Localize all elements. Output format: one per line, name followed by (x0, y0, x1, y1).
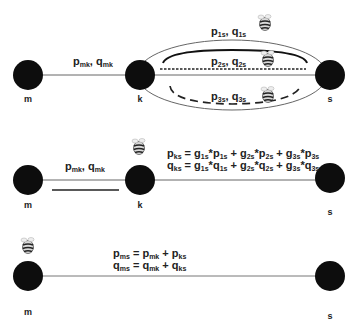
node-m (13, 60, 43, 90)
node-label-s: s (327, 207, 332, 217)
panel-1 (13, 15, 345, 111)
path-2-label: p2s, q2s (211, 55, 246, 67)
node-k (125, 165, 155, 195)
node-label-m: m (24, 200, 32, 210)
bee-icon (258, 15, 271, 31)
node-s (315, 261, 345, 291)
node-label-m: m (24, 307, 32, 317)
node-label-k: k (137, 94, 142, 104)
equation-pms: pms = pmk + pks (113, 247, 186, 259)
node-k (125, 60, 155, 90)
equation-pks: pks = g1s*p1s + g2s*p2s + g3s*p3s (167, 147, 319, 159)
node-label-s: s (327, 94, 332, 104)
node-m (13, 261, 43, 291)
edge-mk-label: pmk, qmk (65, 160, 105, 172)
node-label-m: m (24, 94, 32, 104)
bee-icon (21, 238, 34, 254)
node-s (315, 60, 345, 90)
edge-mk-label: pmk, qmk (73, 55, 113, 67)
bee-icon (261, 87, 274, 103)
bee-icon (261, 51, 274, 67)
path-1-label: p1s, q1s (211, 25, 246, 37)
node-label-s: s (327, 311, 332, 321)
equation-qks: qks = g1s*q1s + g2s*q2s + g3s*q3s (167, 159, 319, 171)
equation-qms: qms = qmk + qks (113, 259, 186, 271)
node-label-k: k (137, 200, 142, 210)
bee-icon (132, 139, 145, 155)
path-3-label: p3s, q3s (211, 90, 246, 102)
node-s (315, 163, 345, 193)
node-m (13, 165, 43, 195)
